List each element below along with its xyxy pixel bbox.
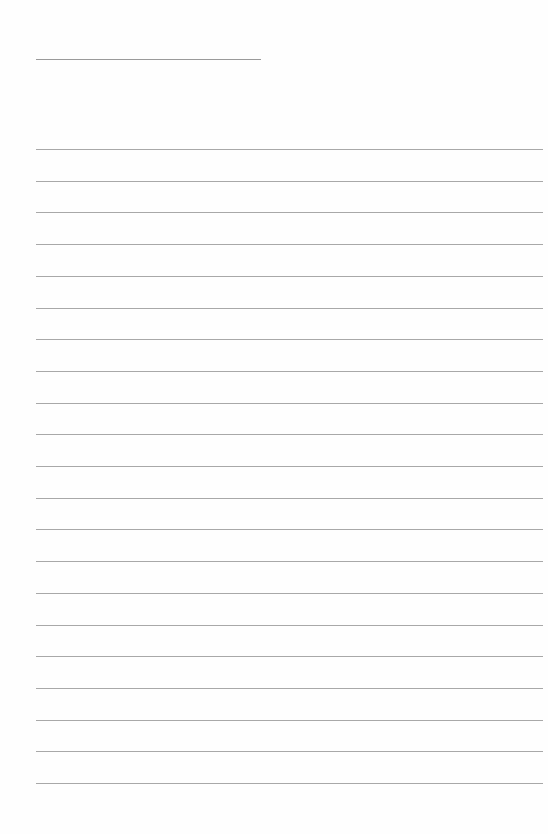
writing-line bbox=[36, 498, 543, 499]
writing-line bbox=[36, 783, 543, 784]
writing-line bbox=[36, 561, 543, 562]
writing-line bbox=[36, 403, 543, 404]
writing-line bbox=[36, 244, 543, 245]
writing-line bbox=[36, 656, 543, 657]
writing-line bbox=[36, 466, 543, 467]
writing-line bbox=[36, 720, 543, 721]
writing-line bbox=[36, 212, 543, 213]
writing-line bbox=[36, 371, 543, 372]
writing-line bbox=[36, 308, 543, 309]
writing-line bbox=[36, 434, 543, 435]
writing-line bbox=[36, 276, 543, 277]
writing-line bbox=[36, 688, 543, 689]
writing-line bbox=[36, 529, 543, 530]
writing-line bbox=[36, 625, 543, 626]
title-writing-line bbox=[36, 59, 261, 60]
writing-line bbox=[36, 181, 543, 182]
lined-paper-page bbox=[0, 0, 548, 834]
writing-line bbox=[36, 593, 543, 594]
writing-line bbox=[36, 149, 543, 150]
writing-line bbox=[36, 751, 543, 752]
writing-line bbox=[36, 339, 543, 340]
